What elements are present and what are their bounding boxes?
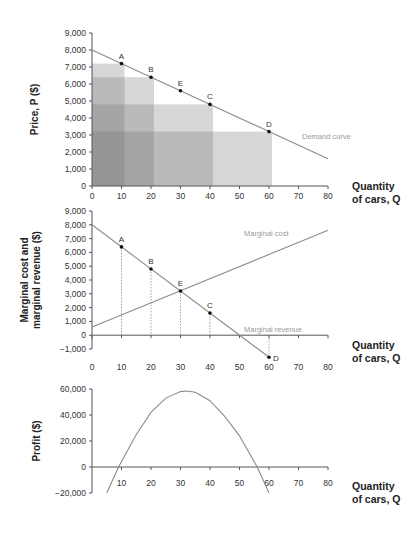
point-label: C [207, 92, 213, 101]
x-tick-label: 70 [294, 191, 304, 201]
point-B [149, 267, 153, 271]
x-tick-label: 10 [117, 362, 127, 372]
x-tick-label: 10 [117, 478, 127, 488]
point-A [120, 245, 124, 249]
y-tick-label: 4,000 [65, 113, 87, 123]
point-C [208, 103, 212, 107]
y-tick-label: 4,000 [65, 275, 87, 285]
marginal-revenue-label: Marginal revenue [244, 325, 302, 334]
y-tick-label: 1,000 [65, 164, 87, 174]
x-tick-label: 0 [90, 362, 95, 372]
y-tick-label: 7,000 [65, 234, 87, 244]
y-tick-label: 0 [81, 181, 86, 191]
y-axis-label: Price, P ($) [29, 84, 40, 136]
x-tick-label: 60 [264, 191, 274, 201]
x-tick-label: 20 [146, 362, 156, 372]
x-tick-label: 50 [235, 191, 245, 201]
point-label: D [266, 120, 272, 129]
y-tick-label: 0 [81, 330, 86, 340]
y-tick-label: 2,000 [65, 147, 87, 157]
profit-line [107, 391, 269, 493]
y-tick-label: 8,000 [65, 45, 87, 55]
point-D [267, 130, 271, 134]
y-tick-label: 0 [81, 462, 86, 472]
x-tick-label: 30 [176, 362, 186, 372]
x-tick-label: 30 [176, 478, 186, 488]
point-A [120, 62, 124, 66]
point-E [179, 89, 183, 93]
point-B [149, 75, 153, 79]
x-tick-label: 40 [205, 191, 215, 201]
point-label: E [178, 279, 183, 288]
point-label: E [178, 79, 183, 88]
point-label: B [148, 257, 153, 266]
x-axis-label: Quantityof cars, Q [352, 480, 400, 505]
point-C [208, 311, 212, 315]
x-axis-label: Quantityof cars, Q [352, 339, 400, 364]
marginal-cost-revenue-chart-panel: −1,00001,0002,0003,0004,0005,0006,0007,0… [19, 206, 400, 372]
x-axis-label: Quantityof cars, Q [352, 180, 400, 205]
demand-chart-panel: 01,0002,0003,0004,0005,0006,0007,0008,00… [29, 28, 400, 205]
y-tick-label: 7,000 [65, 62, 87, 72]
point-D [267, 355, 271, 359]
y-tick-label: −20,000 [55, 488, 86, 498]
y-tick-label: 1,000 [65, 316, 87, 326]
chart-figure: 01,0002,0003,0004,0005,0006,0007,0008,00… [0, 0, 420, 533]
x-tick-label: 50 [235, 478, 245, 488]
x-tick-label: 40 [205, 478, 215, 488]
x-tick-label: 20 [146, 478, 156, 488]
y-tick-label: 9,000 [65, 206, 87, 216]
point-label: C [207, 301, 213, 310]
y-tick-label: 3,000 [65, 289, 87, 299]
x-tick-label: 60 [264, 362, 274, 372]
y-tick-label: 6,000 [65, 247, 87, 257]
x-tick-label: 70 [294, 478, 304, 488]
y-tick-label: −1,000 [60, 344, 87, 354]
x-tick-label: 0 [90, 191, 95, 201]
y-tick-label: 8,000 [65, 220, 87, 230]
x-tick-label: 50 [235, 362, 245, 372]
y-tick-label: 9,000 [65, 28, 87, 38]
marginal-cost-label: Marginal cost [244, 229, 290, 238]
x-tick-label: 10 [117, 191, 127, 201]
x-tick-label: 20 [146, 191, 156, 201]
x-tick-label: 70 [294, 362, 304, 372]
y-axis-label: Marginal cost andmarginal revenue ($) [19, 231, 42, 329]
demand-curve-label: Demand curve [302, 132, 351, 141]
profit-chart-panel: −20,000020,00040,00060,00010203040506070… [31, 384, 400, 505]
y-axis-label: Profit ($) [31, 420, 42, 461]
x-tick-label: 80 [323, 191, 333, 201]
y-tick-label: 6,000 [65, 79, 87, 89]
y-tick-label: 5,000 [65, 261, 87, 271]
y-tick-label: 3,000 [65, 130, 87, 140]
point-E [179, 289, 183, 293]
x-tick-label: 80 [323, 478, 333, 488]
y-tick-label: 40,000 [60, 410, 86, 420]
point-label: A [119, 52, 125, 61]
y-tick-label: 2,000 [65, 303, 87, 313]
y-tick-label: 20,000 [60, 436, 86, 446]
x-tick-label: 80 [323, 362, 333, 372]
x-tick-label: 40 [205, 362, 215, 372]
x-tick-label: 30 [176, 191, 186, 201]
revenue-rect-D [92, 132, 272, 186]
point-label: B [148, 65, 153, 74]
point-label: A [119, 235, 125, 244]
y-tick-label: 60,000 [60, 384, 86, 394]
y-tick-label: 5,000 [65, 96, 87, 106]
point-label: D [273, 354, 279, 363]
